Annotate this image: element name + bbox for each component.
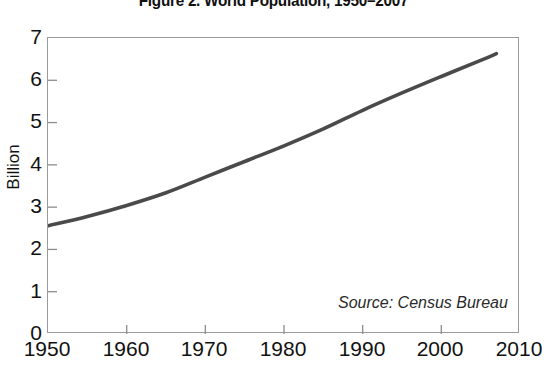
y-tick-label-2: 2: [4, 237, 42, 258]
x-axis-tick-labels: 1950 1960 1970 1980 1990 2000 2010: [0, 338, 547, 365]
y-tick-label-1: 1: [4, 280, 42, 301]
x-tick-label-1980: 1980: [238, 338, 328, 360]
plot-svg: [48, 38, 520, 334]
y-axis-ticks: [48, 80, 57, 291]
x-tick-label-2000: 2000: [395, 338, 485, 360]
x-tick-label-1960: 1960: [81, 338, 171, 360]
y-axis-title: Billion: [4, 127, 24, 207]
chart-title: Figure 2. World Population, 1950–2007: [27, 0, 519, 11]
source-annotation: Source: Census Bureau: [338, 294, 508, 312]
data-series-world-population: [48, 54, 496, 226]
y-tick-label-6: 6: [4, 68, 42, 89]
x-tick-label-1990: 1990: [317, 338, 407, 360]
x-tick-label-1950: 1950: [2, 338, 92, 360]
plot-area: [47, 37, 519, 333]
x-tick-label-2010: 2010: [474, 338, 547, 360]
x-tick-label-1970: 1970: [159, 338, 249, 360]
x-axis-ticks: [127, 325, 442, 334]
y-tick-label-7: 7: [4, 26, 42, 47]
